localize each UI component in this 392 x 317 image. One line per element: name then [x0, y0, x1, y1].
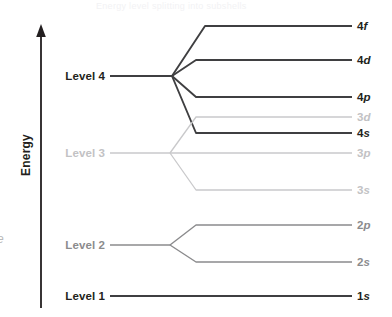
level-label-level-3: Level 3: [0, 147, 105, 159]
orbital-subshell-letter: p: [363, 219, 370, 231]
subshell-line-4f: [172, 26, 352, 76]
up-arrow-icon: [36, 24, 46, 37]
level-label-level-2: Level 2: [0, 239, 105, 251]
subshell-line-3s: [170, 153, 352, 190]
orbital-subshell-letter: d: [363, 54, 370, 66]
level-lines-group: [110, 26, 352, 296]
orbital-label-3s: 3s: [357, 184, 370, 196]
orbital-subshell-letter: f: [363, 20, 367, 32]
subshell-line-2p: [170, 225, 352, 245]
orbital-subshell-letter: s: [363, 290, 369, 302]
orbital-subshell-letter: s: [363, 256, 369, 268]
level-branch-level-2: [110, 225, 352, 262]
orbital-label-1s: 1s: [357, 290, 370, 302]
level-branch-level-3: [110, 117, 352, 190]
energy-axis-label: Energy: [19, 125, 33, 185]
level-label-level-4: Level 4: [0, 70, 105, 82]
orbital-subshell-letter: s: [363, 127, 369, 139]
orbital-label-2p: 2p: [357, 219, 370, 231]
subshell-line-4d: [172, 60, 352, 76]
orbital-subshell-letter: p: [363, 147, 370, 159]
level-label-level-1: Level 1: [0, 290, 105, 302]
subshell-line-4p: [172, 76, 352, 97]
orbital-label-2s: 2s: [357, 256, 370, 268]
subshell-line-4s: [172, 76, 352, 133]
energy-level-diagram: Energy level splitting into subshells Le…: [0, 0, 392, 317]
orbital-subshell-letter: p: [363, 91, 370, 103]
orbital-label-4p: 4p: [357, 91, 370, 103]
orbital-label-4s: 4s: [357, 127, 370, 139]
orbital-label-4d: 4d: [357, 54, 370, 66]
subshell-line-3d: [170, 117, 352, 153]
orbital-subshell-letter: s: [363, 184, 369, 196]
orbital-subshell-letter: d: [363, 111, 370, 123]
orbital-label-4f: 4f: [357, 20, 367, 32]
subshell-line-2s: [170, 245, 352, 262]
orbital-label-3d: 3d: [357, 111, 370, 123]
cropped-edge-glyph: e: [0, 232, 4, 246]
orbital-label-3p: 3p: [357, 147, 370, 159]
energy-axis: [36, 24, 46, 308]
